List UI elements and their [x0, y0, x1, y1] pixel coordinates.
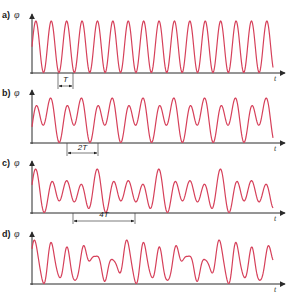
panel-b: b) φ t 2T [2, 87, 285, 156]
x-axis-symbol: t [274, 214, 277, 223]
period-marker-a: T [58, 73, 73, 89]
y-axis-symbol: φ [14, 9, 20, 20]
waveform-d [32, 240, 273, 284]
period-label: 4T [99, 210, 109, 219]
panel-label: d) [2, 229, 11, 239]
x-axis-symbol: t [274, 144, 277, 153]
period-label: 2T [77, 143, 88, 152]
panel-d: d) φ t [2, 228, 285, 294]
panel-a: a) φ t T [2, 9, 285, 89]
period-marker-b: 2T [67, 143, 98, 156]
period-label: T [63, 75, 69, 84]
panel-label: b) [2, 88, 11, 98]
waveform-a [32, 21, 273, 73]
x-axis-symbol: t [274, 74, 277, 83]
panel-label: a) [2, 10, 10, 20]
x-axis-symbol: t [274, 285, 277, 294]
panel-c: c) φ t 4T [2, 157, 285, 224]
y-axis-symbol: φ [14, 228, 20, 239]
waveform-b [32, 98, 273, 143]
oscillation-figure: a) φ t T b) φ t 2T c) φ t 4T [0, 0, 294, 301]
waveform-c [32, 169, 273, 213]
period-marker-c: 4T [73, 210, 135, 224]
panel-label: c) [2, 158, 10, 168]
y-axis-symbol: φ [14, 87, 20, 98]
y-axis-symbol: φ [14, 157, 20, 168]
